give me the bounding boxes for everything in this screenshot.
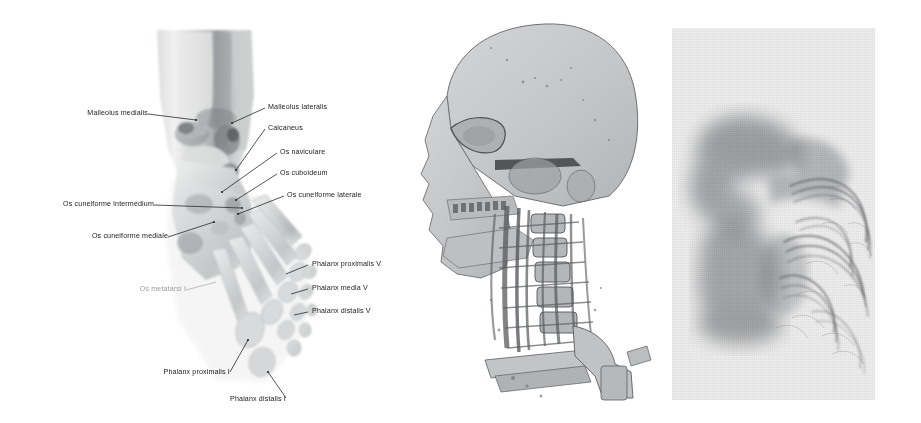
label-malleolus-lateralis: Malleolus lateralis <box>268 104 327 111</box>
label-calcaneus: Calcaneus <box>268 125 303 132</box>
label-os-cuboideum: Os cuboideum <box>280 170 328 177</box>
label-os-naviculare: Os naviculare <box>280 149 325 156</box>
medical-imaging-figure: Malleolus medialis Malleolus lateralis C… <box>0 0 921 423</box>
flow-grain-texture <box>672 28 875 400</box>
label-os-cuneiforme-intermedium: Os cuneiforme intermedium <box>0 201 154 208</box>
panel-foot-ct: Malleolus medialis Malleolus lateralis C… <box>0 0 400 423</box>
label-os-cuneiforme-mediale: Os cuneiforme mediale <box>0 233 168 240</box>
panel-flow-visualization <box>672 28 875 400</box>
label-phalanx-media-v: Phalanx media V <box>312 285 368 292</box>
label-os-cuneiforme-laterale: Os cuneiforme laterale <box>287 192 362 199</box>
foot-leader-lines <box>0 0 400 423</box>
label-malleolus-medialis: Malleolus medialis <box>0 110 148 117</box>
label-os-metatarsi-i: Os metatarsi I <box>0 286 186 293</box>
label-phalanx-distalis-i: Phalanx distalis I <box>0 396 286 403</box>
label-phalanx-proximalis-v: Phalanx proximalis V <box>312 261 381 268</box>
label-phalanx-distalis-v: Phalanx distalis V <box>312 308 371 315</box>
head-neck-volume-rendering <box>395 0 660 423</box>
label-phalanx-proximalis-i: Phalanx proximalis I <box>0 369 230 376</box>
panel-head-neck-cta <box>395 0 660 423</box>
